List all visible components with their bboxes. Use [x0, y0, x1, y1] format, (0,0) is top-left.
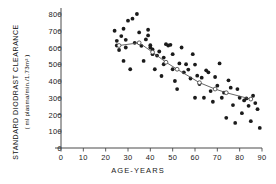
data-point [126, 19, 130, 23]
data-point [146, 34, 150, 38]
data-point [249, 119, 253, 123]
data-point [240, 111, 244, 115]
data-point [256, 107, 260, 111]
data-point [128, 67, 132, 71]
data-point [124, 38, 128, 42]
data-point [213, 75, 217, 79]
data-point [124, 46, 128, 50]
data-point [207, 70, 211, 74]
data-point [236, 87, 240, 91]
data-point [218, 62, 222, 66]
data-point [169, 43, 173, 47]
trend-vertex [175, 67, 179, 71]
trend-vertex [164, 60, 168, 64]
data-point [180, 46, 184, 50]
data-point [195, 74, 199, 78]
trend-vertex [249, 97, 253, 101]
data-point [193, 96, 197, 100]
data-point [146, 28, 150, 32]
data-point [186, 68, 190, 72]
trend-vertex [137, 41, 141, 45]
data-point [162, 56, 166, 60]
data-point [171, 52, 175, 56]
data-point [231, 103, 235, 107]
data-point [247, 104, 251, 108]
data-point [224, 116, 228, 120]
data-point [153, 67, 157, 71]
data-point [177, 62, 181, 66]
data-point [131, 17, 135, 21]
data-point [117, 48, 121, 52]
data-point [137, 31, 141, 35]
data-point [157, 50, 161, 54]
data-point [171, 67, 175, 71]
data-point [175, 87, 179, 91]
data-point [122, 27, 126, 31]
data-point [135, 12, 139, 16]
data-point [209, 89, 213, 93]
data-point [122, 59, 126, 63]
data-point [227, 78, 231, 82]
data-point [193, 63, 197, 67]
trend-vertex [224, 91, 228, 95]
data-point [229, 86, 233, 90]
data-point [115, 39, 119, 43]
data-point [113, 29, 117, 33]
data-point [220, 96, 224, 100]
trend-vertex [117, 44, 121, 48]
data-point [191, 52, 195, 56]
trend-vertex [198, 81, 202, 85]
data-point [184, 62, 188, 66]
data-point [142, 59, 146, 63]
data-point [211, 100, 215, 104]
plot-canvas [0, 0, 276, 184]
trend-vertex [213, 87, 217, 91]
data-point [119, 34, 123, 38]
data-point [160, 74, 164, 78]
trend-vertex [151, 50, 155, 54]
data-point [173, 79, 177, 83]
data-point [144, 38, 148, 42]
data-point [202, 96, 206, 100]
data-point [253, 101, 257, 105]
scatter-plot-figure: STANDARD DIODRAST CLEARANCE ( ml plasma/… [0, 0, 276, 184]
data-point [233, 121, 237, 125]
data-point [200, 76, 204, 80]
data-point [258, 126, 262, 130]
